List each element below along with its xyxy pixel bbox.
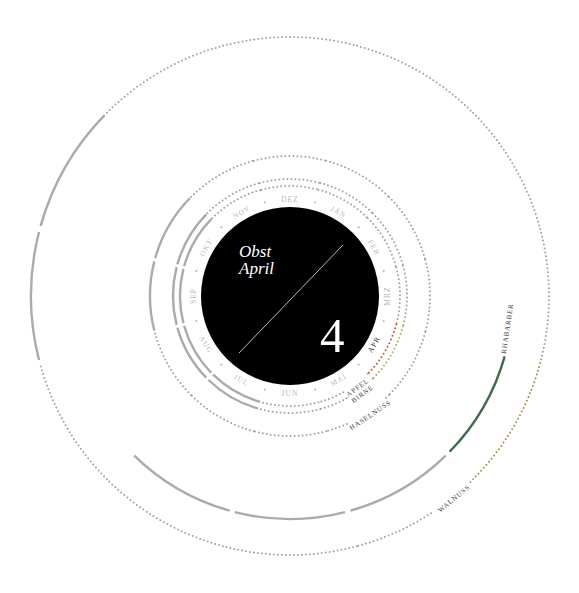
- month-separator-dot: [220, 363, 222, 365]
- offseason-arc: [470, 479, 473, 482]
- offseason-arc: [191, 161, 254, 197]
- season-arc: [173, 267, 177, 325]
- ring-label: RHABARBER: [500, 303, 515, 355]
- season-arc: [41, 115, 105, 226]
- season-arc: [134, 456, 229, 511]
- center-disc: [201, 207, 379, 385]
- offseason-arc: [389, 197, 425, 260]
- offseason-arc: [320, 183, 372, 213]
- offseason-arc: [403, 266, 407, 327]
- month-separator-dot: [314, 201, 316, 203]
- month-label: MRZ: [383, 286, 392, 305]
- offseason-arc: [425, 260, 430, 332]
- offseason-arc: [389, 332, 425, 395]
- offseason-arc: [366, 374, 367, 375]
- month-separator-dot: [357, 363, 359, 365]
- offseason-arc: [473, 113, 540, 229]
- offseason-arc: [371, 379, 372, 380]
- ring-label: WALNUSS: [436, 483, 472, 514]
- offseason-arc: [396, 268, 400, 325]
- offseason-arc: [191, 395, 254, 431]
- month-separator-dot: [220, 226, 222, 228]
- offseason-arc: [262, 186, 319, 190]
- offseason-arc: [223, 546, 357, 555]
- season-arc: [150, 261, 154, 330]
- month-label: JUL: [232, 372, 250, 388]
- offseason-arc: [373, 213, 403, 265]
- offseason-arc: [357, 513, 431, 546]
- offseason-arc: [107, 479, 223, 546]
- offseason-arc: [207, 183, 259, 213]
- current-month-offseason-arc: [373, 326, 403, 378]
- current-month-offseason-arc: [473, 363, 540, 479]
- offseason-arc: [223, 37, 357, 46]
- season-arc: [208, 380, 258, 409]
- offseason-arc: [254, 156, 326, 161]
- season-arc: [235, 512, 345, 519]
- month-separator-dot: [357, 226, 359, 228]
- season-arc: [180, 269, 183, 323]
- offseason-arc: [254, 431, 326, 436]
- offseason-arc: [40, 363, 107, 479]
- offseason-arc: [260, 409, 321, 413]
- current-month-season-arc: [450, 356, 505, 451]
- month-separator-dot: [195, 270, 197, 272]
- offseason-arc: [357, 46, 473, 113]
- offseason-arc: [326, 424, 347, 431]
- radial-season-chart: APFELBIRNEHASELNUSSRHABARBERWALNUSS JÄNF…: [0, 0, 579, 593]
- offseason-arc: [260, 179, 321, 183]
- month-separator-dot: [264, 389, 266, 391]
- offseason-arc: [540, 229, 549, 363]
- season-arc: [155, 198, 190, 258]
- offseason-arc: [318, 392, 343, 402]
- month-name: April: [238, 259, 274, 278]
- seasonal-calendar: APFELBIRNEHASELNUSSRHABARBERWALNUSS JÄNF…: [0, 0, 579, 593]
- offseason-arc: [155, 332, 191, 395]
- offseason-arc: [385, 395, 389, 398]
- offseason-arc: [262, 402, 319, 406]
- month-number: 4: [320, 308, 345, 363]
- season-arc: [31, 232, 39, 360]
- season-arc: [350, 456, 445, 511]
- month-label: SEP: [189, 288, 198, 304]
- month-separator-dot: [383, 270, 385, 272]
- month-separator-dot: [264, 201, 266, 203]
- offseason-arc: [107, 46, 223, 113]
- month-separator-dot: [195, 320, 197, 322]
- month-label: JUN: [282, 389, 299, 398]
- month-label: DEZ: [281, 195, 299, 204]
- month-separator-dot: [383, 320, 385, 322]
- offseason-arc: [326, 161, 389, 197]
- month-separator-dot: [314, 389, 316, 391]
